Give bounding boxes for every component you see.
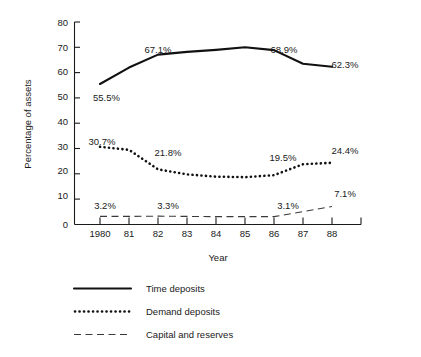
legend-label: Capital and reserves bbox=[146, 329, 233, 340]
x-tick-label: 84 bbox=[211, 228, 222, 239]
data-label: 3.3% bbox=[157, 200, 179, 211]
data-label: 7.1% bbox=[334, 188, 356, 199]
legend-item-capital-and-reserves[interactable]: Capital and reserves bbox=[74, 329, 233, 340]
y-tick-label: 40 bbox=[57, 116, 68, 127]
x-tick-label: 81 bbox=[124, 228, 135, 239]
y-tick-label: 70 bbox=[57, 42, 68, 53]
legend-label: Time deposits bbox=[146, 283, 205, 294]
legend-item-time-deposits[interactable]: Time deposits bbox=[74, 283, 205, 294]
chart-figure: Percentage of assets 80 70 60 50 40 30 2… bbox=[0, 0, 421, 357]
y-axis-title: Percentage of assets bbox=[22, 79, 33, 168]
capital-reserves-annotations: 3.2% 3.3% 3.1% 7.1% bbox=[94, 188, 356, 211]
data-label: 67.1% bbox=[145, 44, 172, 55]
x-tick-label: 1980 bbox=[89, 228, 110, 239]
data-label: 3.1% bbox=[277, 200, 299, 211]
x-tick-label: 88 bbox=[327, 228, 338, 239]
y-tick-label: 60 bbox=[57, 66, 68, 77]
line-chart: Percentage of assets 80 70 60 50 40 30 2… bbox=[0, 0, 421, 357]
legend-label: Demand deposits bbox=[146, 306, 220, 317]
legend-item-demand-deposits[interactable]: Demand deposits bbox=[75, 306, 220, 317]
data-label: 3.2% bbox=[94, 200, 116, 211]
data-label: 30.7% bbox=[89, 136, 116, 147]
series-line-demand-deposits bbox=[100, 147, 332, 177]
y-tick-label: 20 bbox=[57, 165, 68, 176]
y-tick-label: 0 bbox=[63, 219, 68, 230]
data-label: 55.5% bbox=[93, 92, 120, 103]
y-tick-label: 80 bbox=[57, 17, 68, 28]
demand-deposits-annotations: 30.7% 21.8% 19.5% 24.4% bbox=[89, 136, 359, 163]
data-label: 68.9% bbox=[271, 44, 298, 55]
x-tick-label: 82 bbox=[153, 228, 164, 239]
x-tick-label: 86 bbox=[269, 228, 280, 239]
time-deposits-annotations: 55.5% 67.1% 68.9% 62.3% bbox=[93, 44, 359, 104]
x-tick-label: 87 bbox=[298, 228, 309, 239]
y-tick-label: 30 bbox=[57, 141, 68, 152]
x-tick-label: 85 bbox=[240, 228, 251, 239]
y-tick-labels: 80 70 60 50 40 30 20 10 0 bbox=[57, 17, 68, 230]
y-tick-marks bbox=[75, 22, 81, 199]
data-label: 19.5% bbox=[270, 152, 297, 163]
chart-legend: Time deposits Demand deposits Capital an… bbox=[74, 283, 233, 340]
x-tick-labels: 1980 81 82 83 84 85 86 87 88 bbox=[89, 228, 337, 239]
data-label: 62.3% bbox=[332, 59, 359, 70]
y-tick-label: 10 bbox=[57, 190, 68, 201]
x-axis-title: Year bbox=[208, 252, 227, 263]
x-tick-marks bbox=[100, 218, 361, 225]
data-label: 24.4% bbox=[332, 145, 359, 156]
data-label: 21.8% bbox=[155, 147, 182, 158]
y-tick-label: 50 bbox=[57, 91, 68, 102]
x-tick-label: 83 bbox=[182, 228, 193, 239]
